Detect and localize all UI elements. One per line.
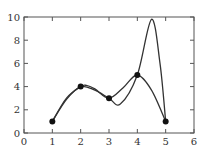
data-point-marker	[106, 95, 112, 101]
x-tick-label: 2	[77, 136, 83, 147]
x-tick-label: 0	[21, 136, 27, 147]
data-point-marker	[163, 118, 169, 124]
x-tick-label: 3	[106, 136, 112, 147]
plot-frame	[24, 17, 194, 133]
y-tick-label: 6	[14, 58, 20, 69]
x-tick-label: 5	[162, 136, 168, 147]
curves	[52, 19, 165, 121]
data-point-marker	[78, 84, 84, 90]
data-point-marker	[134, 72, 140, 78]
x-tick-label: 6	[191, 136, 197, 147]
y-tick-label: 8	[14, 35, 20, 46]
x-tick-label: 1	[49, 136, 55, 147]
y-tick-label: 0	[14, 128, 20, 139]
chart: 01234560246810	[0, 0, 202, 152]
curve-a	[52, 19, 165, 121]
data-point-marker	[49, 118, 55, 124]
y-tick-label: 2	[14, 104, 20, 115]
y-tick-label: 10	[7, 12, 20, 23]
x-tick-label: 4	[134, 136, 140, 147]
tick-labels: 01234560246810	[7, 12, 197, 148]
y-tick-label: 4	[14, 81, 20, 92]
axis-ticks	[24, 17, 194, 133]
